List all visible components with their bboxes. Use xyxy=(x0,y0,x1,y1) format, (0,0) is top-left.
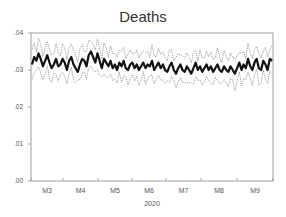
x-tick-label: M4 xyxy=(76,187,86,194)
deaths-forecast-line xyxy=(32,52,272,74)
x-tick-label: M3 xyxy=(42,187,52,194)
x-tick-label: M7 xyxy=(179,187,189,194)
x-tick-label: M5 xyxy=(110,187,120,194)
x-tick-label: M9 xyxy=(250,187,260,194)
x-axis: M3M4M5M6M7M8M9 xyxy=(31,178,273,194)
upper-band-line xyxy=(32,38,272,63)
series-group xyxy=(32,38,272,90)
line-chart: .00.01.02.03.04 M3M4M5M6M7M8M9 2020 xyxy=(0,0,286,217)
y-tick-label: .02 xyxy=(14,103,23,110)
x-tick-label: M8 xyxy=(214,187,224,194)
y-tick-label: .01 xyxy=(14,140,23,147)
y-tick-label: .04 xyxy=(14,29,23,36)
x-axis-title: 2020 xyxy=(144,200,160,207)
x-tick-label: M6 xyxy=(144,187,154,194)
y-axis: .00.01.02.03.04 xyxy=(14,29,31,184)
y-tick-label: .00 xyxy=(14,177,23,184)
y-tick-label: .03 xyxy=(14,66,23,73)
plot-frame xyxy=(31,33,273,181)
